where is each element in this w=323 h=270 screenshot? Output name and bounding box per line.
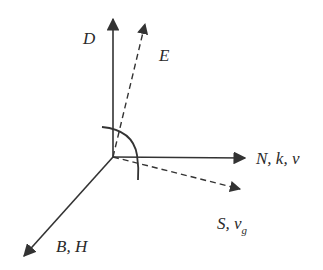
vector-diagram: D E N, k, v S, vg B, H [0, 0, 323, 270]
label-n: N, k, v [255, 149, 300, 168]
angle-arc [102, 127, 138, 180]
vector-n [113, 157, 245, 158]
label-b: B, H [56, 237, 89, 256]
label-e: E [158, 46, 170, 65]
n-arrow-icon [113, 157, 245, 158]
label-d: D [82, 29, 96, 48]
label-s: S, vg [217, 214, 248, 236]
s-arrow-icon [113, 157, 240, 189]
vector-s [113, 157, 240, 189]
